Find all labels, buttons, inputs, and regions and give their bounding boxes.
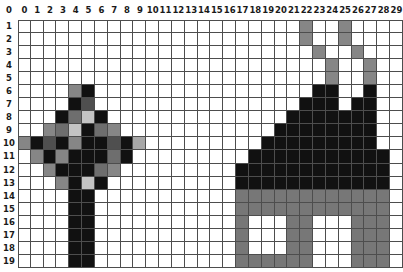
grid-cell-23-4[interactable] bbox=[313, 59, 326, 72]
grid-cell-19-9[interactable] bbox=[262, 124, 275, 137]
grid-cell-17-10[interactable] bbox=[236, 137, 249, 150]
grid-cell-28-10[interactable] bbox=[377, 137, 390, 150]
grid-cell-5-7[interactable] bbox=[82, 98, 95, 111]
grid-cell-2-4[interactable] bbox=[44, 59, 57, 72]
grid-cell-11-7[interactable] bbox=[159, 98, 172, 111]
grid-cell-17-5[interactable] bbox=[236, 72, 249, 85]
grid-cell-18-5[interactable] bbox=[249, 72, 262, 85]
grid-cell-2-5[interactable] bbox=[44, 72, 57, 85]
grid-cell-18-9[interactable] bbox=[249, 124, 262, 137]
grid-cell-22-5[interactable] bbox=[300, 72, 313, 85]
grid-cell-19-12[interactable] bbox=[262, 164, 275, 177]
grid-cell-19-14[interactable] bbox=[262, 190, 275, 203]
grid-cell-1-19[interactable] bbox=[31, 255, 44, 268]
grid-cell-20-16[interactable] bbox=[275, 216, 288, 229]
grid-cell-6-17[interactable] bbox=[95, 229, 108, 242]
grid-cell-18-10[interactable] bbox=[249, 137, 262, 150]
grid-cell-6-18[interactable] bbox=[95, 242, 108, 255]
grid-cell-14-1[interactable] bbox=[198, 20, 211, 33]
grid-cell-3-18[interactable] bbox=[56, 242, 69, 255]
grid-cell-21-12[interactable] bbox=[287, 164, 300, 177]
grid-cell-7-16[interactable] bbox=[108, 216, 121, 229]
grid-cell-14-4[interactable] bbox=[198, 59, 211, 72]
grid-cell-4-16[interactable] bbox=[69, 216, 82, 229]
grid-cell-5-6[interactable] bbox=[82, 85, 95, 98]
grid-cell-4-14[interactable] bbox=[69, 190, 82, 203]
grid-cell-19-4[interactable] bbox=[262, 59, 275, 72]
grid-cell-3-16[interactable] bbox=[56, 216, 69, 229]
grid-cell-18-7[interactable] bbox=[249, 98, 262, 111]
grid-cell-1-7[interactable] bbox=[31, 98, 44, 111]
grid-cell-5-19[interactable] bbox=[82, 255, 95, 268]
grid-cell-24-15[interactable] bbox=[326, 203, 339, 216]
grid-cell-12-14[interactable] bbox=[172, 190, 185, 203]
grid-cell-10-11[interactable] bbox=[146, 150, 159, 163]
grid-cell-12-4[interactable] bbox=[172, 59, 185, 72]
grid-cell-3-1[interactable] bbox=[56, 20, 69, 33]
grid-cell-19-10[interactable] bbox=[262, 137, 275, 150]
grid-cell-19-1[interactable] bbox=[262, 20, 275, 33]
grid-cell-2-15[interactable] bbox=[44, 203, 57, 216]
grid-cell-24-5[interactable] bbox=[326, 72, 339, 85]
grid-cell-22-1[interactable] bbox=[300, 20, 313, 33]
grid-cell-2-17[interactable] bbox=[44, 229, 57, 242]
grid-cell-28-4[interactable] bbox=[377, 59, 390, 72]
grid-cell-10-14[interactable] bbox=[146, 190, 159, 203]
grid-cell-28-2[interactable] bbox=[377, 33, 390, 46]
grid-cell-15-11[interactable] bbox=[210, 150, 223, 163]
grid-cell-6-4[interactable] bbox=[95, 59, 108, 72]
grid-cell-10-16[interactable] bbox=[146, 216, 159, 229]
grid-cell-26-3[interactable] bbox=[352, 46, 365, 59]
grid-cell-16-8[interactable] bbox=[223, 111, 236, 124]
grid-cell-19-2[interactable] bbox=[262, 33, 275, 46]
grid-cell-13-15[interactable] bbox=[185, 203, 198, 216]
grid-cell-18-2[interactable] bbox=[249, 33, 262, 46]
grid-cell-28-19[interactable] bbox=[377, 255, 390, 268]
grid-cell-18-17[interactable] bbox=[249, 229, 262, 242]
grid-cell-7-19[interactable] bbox=[108, 255, 121, 268]
grid-cell-20-17[interactable] bbox=[275, 229, 288, 242]
grid-cell-6-6[interactable] bbox=[95, 85, 108, 98]
grid-cell-14-10[interactable] bbox=[198, 137, 211, 150]
grid-cell-9-7[interactable] bbox=[133, 98, 146, 111]
grid-cell-25-16[interactable] bbox=[339, 216, 352, 229]
grid-cell-11-14[interactable] bbox=[159, 190, 172, 203]
grid-cell-18-11[interactable] bbox=[249, 150, 262, 163]
grid-cell-21-4[interactable] bbox=[287, 59, 300, 72]
grid-cell-2-1[interactable] bbox=[44, 20, 57, 33]
grid-cell-26-18[interactable] bbox=[352, 242, 365, 255]
grid-cell-11-8[interactable] bbox=[159, 111, 172, 124]
grid-cell-21-8[interactable] bbox=[287, 111, 300, 124]
grid-cell-23-13[interactable] bbox=[313, 177, 326, 190]
grid-cell-18-19[interactable] bbox=[249, 255, 262, 268]
grid-cell-17-4[interactable] bbox=[236, 59, 249, 72]
grid-cell-27-2[interactable] bbox=[364, 33, 377, 46]
grid-cell-19-3[interactable] bbox=[262, 46, 275, 59]
grid-cell-8-12[interactable] bbox=[121, 164, 134, 177]
grid-cell-12-7[interactable] bbox=[172, 98, 185, 111]
grid-cell-15-9[interactable] bbox=[210, 124, 223, 137]
grid-cell-15-17[interactable] bbox=[210, 229, 223, 242]
grid-cell-13-3[interactable] bbox=[185, 46, 198, 59]
grid-cell-4-3[interactable] bbox=[69, 46, 82, 59]
grid-cell-29-17[interactable] bbox=[390, 229, 403, 242]
grid-cell-14-14[interactable] bbox=[198, 190, 211, 203]
grid-cell-16-3[interactable] bbox=[223, 46, 236, 59]
grid-cell-14-2[interactable] bbox=[198, 33, 211, 46]
grid-cell-11-6[interactable] bbox=[159, 85, 172, 98]
grid-cell-19-15[interactable] bbox=[262, 203, 275, 216]
grid-cell-24-4[interactable] bbox=[326, 59, 339, 72]
grid-cell-14-19[interactable] bbox=[198, 255, 211, 268]
grid-cell-22-4[interactable] bbox=[300, 59, 313, 72]
grid-cell-20-18[interactable] bbox=[275, 242, 288, 255]
grid-cell-27-5[interactable] bbox=[364, 72, 377, 85]
grid-cell-3-19[interactable] bbox=[56, 255, 69, 268]
grid-cell-8-6[interactable] bbox=[121, 85, 134, 98]
grid-cell-19-17[interactable] bbox=[262, 229, 275, 242]
grid-cell-7-17[interactable] bbox=[108, 229, 121, 242]
grid-cell-21-18[interactable] bbox=[287, 242, 300, 255]
grid-cell-25-8[interactable] bbox=[339, 111, 352, 124]
grid-cell-6-3[interactable] bbox=[95, 46, 108, 59]
grid-cell-8-19[interactable] bbox=[121, 255, 134, 268]
grid-cell-8-3[interactable] bbox=[121, 46, 134, 59]
